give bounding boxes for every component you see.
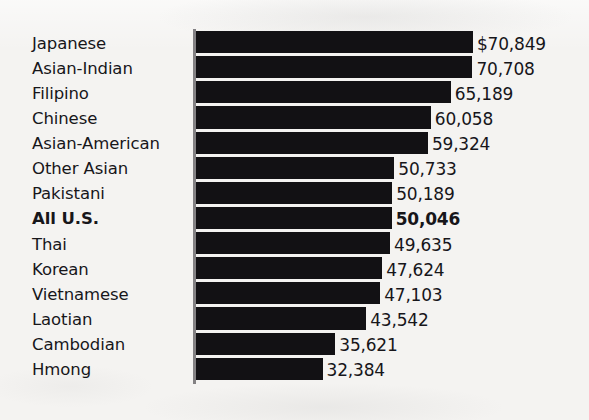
bar-track — [196, 106, 431, 128]
bar-track — [196, 333, 335, 355]
bar — [196, 132, 428, 154]
bar-track — [196, 157, 394, 179]
category-label: Vietnamese — [32, 287, 129, 304]
value-label: 47,103 — [380, 286, 442, 303]
category-label: Thai — [32, 236, 67, 253]
value-label: 65,189 — [451, 85, 513, 102]
bar — [196, 358, 323, 380]
bar — [196, 232, 390, 254]
bar — [196, 182, 392, 204]
bar-rows-container: Japanese$70,849Asian-Indian70,708Filipin… — [0, 31, 589, 383]
value-label: 43,542 — [366, 311, 428, 328]
bar-row: Thai49,635 — [0, 232, 589, 257]
bar-row: Asian-American59,324 — [0, 132, 589, 157]
value-label: 50,046 — [392, 211, 460, 228]
bar-row: Laotian43,542 — [0, 307, 589, 332]
value-label: 50,189 — [392, 186, 454, 203]
category-label: Filipino — [32, 86, 89, 103]
category-label: Japanese — [32, 35, 106, 52]
bar-row: Chinese60,058 — [0, 106, 589, 131]
bar — [196, 207, 392, 229]
category-label: Asian-American — [32, 136, 160, 153]
bar-row: Japanese$70,849 — [0, 31, 589, 56]
bar-track — [196, 232, 390, 254]
value-label: $70,849 — [473, 35, 546, 52]
category-label: Asian-Indian — [32, 60, 133, 77]
value-label: 49,635 — [390, 236, 452, 253]
bar-track — [196, 81, 451, 103]
value-label: 50,733 — [394, 161, 456, 178]
category-label: Other Asian — [32, 161, 128, 178]
value-label: 59,324 — [428, 136, 490, 153]
bar-track — [196, 56, 472, 78]
category-label: Chinese — [32, 111, 97, 128]
bar — [196, 56, 472, 78]
value-label: 70,708 — [472, 60, 534, 77]
bar-track — [196, 207, 392, 229]
bar-track — [196, 132, 428, 154]
bar — [196, 157, 394, 179]
bar-track — [196, 282, 380, 304]
value-label: 32,384 — [323, 362, 385, 379]
income-by-group-bar-chart: Japanese$70,849Asian-Indian70,708Filipin… — [0, 0, 589, 420]
bar — [196, 31, 473, 53]
bar-track — [196, 358, 323, 380]
bar-row: All U.S.50,046 — [0, 207, 589, 232]
bar — [196, 333, 335, 355]
bar — [196, 257, 382, 279]
bar-row: Vietnamese47,103 — [0, 282, 589, 307]
category-label: Hmong — [32, 362, 91, 379]
value-label: 47,624 — [382, 261, 444, 278]
value-label: 35,621 — [335, 337, 397, 354]
bar — [196, 282, 380, 304]
bar-row: Korean47,624 — [0, 257, 589, 282]
category-label: Pakistani — [32, 186, 105, 203]
bar-row: Cambodian35,621 — [0, 333, 589, 358]
bar-row: Asian-Indian70,708 — [0, 56, 589, 81]
category-label: All U.S. — [32, 211, 99, 228]
bar — [196, 106, 431, 128]
category-label: Cambodian — [32, 337, 125, 354]
bar-row: Hmong32,384 — [0, 358, 589, 383]
bar-row: Filipino65,189 — [0, 81, 589, 106]
bar-track — [196, 31, 473, 53]
category-label: Laotian — [32, 312, 92, 329]
bar-row: Pakistani50,189 — [0, 182, 589, 207]
bar-row: Other Asian50,733 — [0, 157, 589, 182]
bar-track — [196, 182, 392, 204]
bar-track — [196, 307, 366, 329]
value-label: 60,058 — [431, 110, 493, 127]
bar — [196, 307, 366, 329]
bar — [196, 81, 451, 103]
category-label: Korean — [32, 261, 89, 278]
bar-track — [196, 257, 382, 279]
